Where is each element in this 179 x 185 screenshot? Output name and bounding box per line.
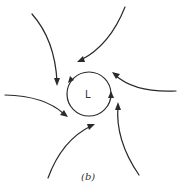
inflow-arrow-top-left [32,14,60,86]
arrowhead-icon [115,102,121,110]
circle-arrowhead-right [108,91,114,98]
figure-caption: (b) [81,171,95,182]
center-label: L [85,89,91,100]
inflow-arrow-right [112,72,176,91]
arrowhead-icon [77,56,85,62]
arrowhead-icon [54,78,60,86]
inflow-arrow-bottom-left [48,124,95,178]
arrowhead-icon [87,124,95,130]
inflow-arrow-left [5,95,68,117]
inflow-arrow-bottom-right [115,102,139,175]
cyclone-diagram: L (b) [0,0,179,185]
inflow-arrow-top-right [77,7,125,62]
